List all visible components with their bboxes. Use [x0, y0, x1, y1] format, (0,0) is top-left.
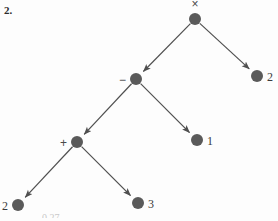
tree-edge: [84, 84, 131, 135]
tree-node[interactable]: ×: [189, 0, 201, 25]
tree-edge: [25, 147, 72, 198]
expression-tree-diagram: ×2−1+23: [0, 0, 278, 221]
tree-node[interactable]: 2: [251, 70, 273, 84]
page-bottom-cut-text: 0.27: [42, 213, 94, 218]
tree-nodes-group: ×2−1+23: [2, 0, 273, 213]
tree-node-circle[interactable]: [130, 73, 142, 85]
tree-edge: [141, 84, 190, 133]
tree-node-circle[interactable]: [191, 134, 203, 146]
tree-edge: [82, 147, 131, 196]
tree-node-circle[interactable]: [251, 70, 263, 82]
tree-node-circle[interactable]: [12, 199, 24, 211]
tree-node-label: 2: [2, 199, 8, 213]
tree-node-label: 1: [207, 134, 213, 148]
tree-node[interactable]: 1: [191, 134, 213, 148]
figure-canvas: 2. ×2−1+23 0.27: [0, 0, 278, 221]
tree-edge: [143, 24, 190, 72]
tree-node-label: −: [119, 73, 126, 87]
tree-node-label: 2: [267, 70, 273, 84]
tree-node-label: +: [60, 136, 67, 150]
tree-node-circle[interactable]: [71, 136, 83, 148]
tree-node-label: 3: [148, 197, 154, 211]
tree-edges-group: [25, 23, 249, 197]
tree-node-circle[interactable]: [189, 13, 201, 25]
tree-node[interactable]: 3: [132, 197, 154, 211]
tree-edge: [200, 23, 249, 68]
tree-node-label: ×: [191, 0, 198, 11]
tree-node-circle[interactable]: [132, 197, 144, 209]
tree-node[interactable]: 2: [2, 199, 24, 213]
